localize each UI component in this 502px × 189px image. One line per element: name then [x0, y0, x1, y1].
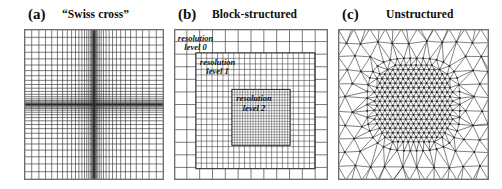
- panel-tag: (c): [342, 5, 359, 23]
- level-label-line1: resolution: [200, 57, 235, 67]
- resolution-level-label: resolutionlevel 1: [200, 58, 235, 77]
- mesh-unstructured: [338, 29, 489, 180]
- mesh-swiss-cross: [24, 29, 164, 180]
- level-label-line2: level 1: [200, 67, 235, 77]
- panel-title: Block-structured: [212, 5, 297, 23]
- resolution-level-label: resolutionlevel 0: [178, 34, 213, 53]
- panel-title: Unstructured: [386, 5, 453, 23]
- figure-mesh-comparison: (a)“Swiss cross”(b)Block-structuredresol…: [0, 0, 502, 189]
- mesh-block-structured: resolutionlevel 0resolutionlevel 1resolu…: [174, 29, 328, 180]
- level-label-line2: level 0: [178, 43, 213, 53]
- level-label-line1: resolution: [178, 33, 213, 43]
- level-label-line2: level 2: [236, 104, 271, 114]
- panel-tag: (b): [178, 5, 196, 23]
- panel-title: “Swiss cross”: [62, 5, 129, 23]
- panel-tag: (a): [28, 5, 46, 23]
- level-label-line1: resolution: [236, 93, 271, 103]
- resolution-level-label: resolutionlevel 2: [236, 94, 271, 113]
